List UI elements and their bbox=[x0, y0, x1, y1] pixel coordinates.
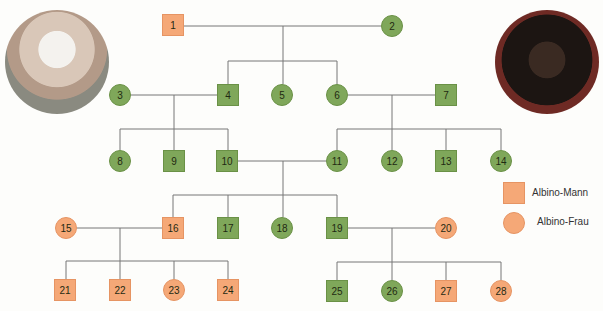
pedigree-node-27: 27 bbox=[435, 280, 457, 302]
pedigree-node-5: 5 bbox=[271, 84, 293, 106]
pedigree-node-16: 16 bbox=[162, 217, 184, 239]
woman-photo bbox=[495, 10, 599, 114]
pedigree-node-3: 3 bbox=[109, 84, 131, 106]
pedigree-node-10: 10 bbox=[216, 150, 238, 172]
pedigree-node-25: 25 bbox=[326, 280, 348, 302]
pedigree-node-20: 20 bbox=[435, 217, 457, 239]
pedigree-node-17: 17 bbox=[217, 217, 239, 239]
albino-man-photo bbox=[5, 10, 109, 114]
pedigree-node-2: 2 bbox=[381, 15, 403, 37]
pedigree-node-22: 22 bbox=[109, 279, 131, 301]
pedigree-node-13: 13 bbox=[435, 150, 457, 172]
pedigree-node-8: 8 bbox=[109, 150, 131, 172]
pedigree-node-1: 1 bbox=[162, 14, 184, 36]
pedigree-node-24: 24 bbox=[217, 279, 239, 301]
legend-female-swatch bbox=[503, 212, 525, 234]
pedigree-node-15: 15 bbox=[55, 217, 77, 239]
pedigree-node-18: 18 bbox=[271, 217, 293, 239]
pedigree-node-21: 21 bbox=[54, 279, 76, 301]
pedigree-node-4: 4 bbox=[217, 84, 239, 106]
pedigree-node-12: 12 bbox=[381, 150, 403, 172]
pedigree-node-6: 6 bbox=[326, 84, 348, 106]
pedigree-node-9: 9 bbox=[163, 150, 185, 172]
pedigree-node-7: 7 bbox=[435, 84, 457, 106]
legend-male-swatch bbox=[503, 182, 525, 204]
pedigree-node-28: 28 bbox=[490, 280, 512, 302]
pedigree-node-19: 19 bbox=[326, 217, 348, 239]
legend-male-label: Albino-Mann bbox=[532, 187, 588, 198]
pedigree-node-26: 26 bbox=[381, 280, 403, 302]
legend-female-label: Albino-Frau bbox=[537, 216, 589, 227]
pedigree-node-23: 23 bbox=[163, 279, 185, 301]
pedigree-node-11: 11 bbox=[326, 150, 348, 172]
pedigree-node-14: 14 bbox=[490, 150, 512, 172]
pedigree-chart: 1234567891011121314151617181920212223242… bbox=[0, 0, 603, 311]
